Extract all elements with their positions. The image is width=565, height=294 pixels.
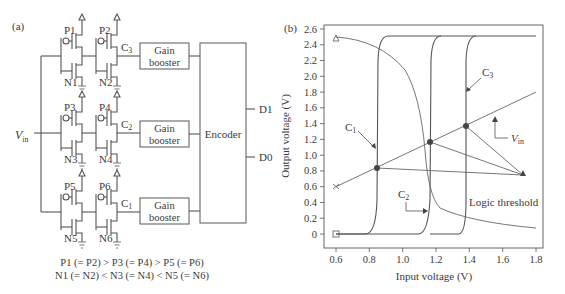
svg-text:1.2: 1.2 [304,134,317,145]
annot-c1: C1 [345,121,356,135]
svg-text:1.4: 1.4 [304,118,318,129]
svg-text:0: 0 [312,229,317,240]
svg-text:booster: booster [149,57,180,68]
label-p3: P3 [64,101,76,113]
plot-annotations: C1 C2 C3 Vin Logic threshold [345,66,539,214]
annot-logic-threshold: Logic threshold [469,196,539,208]
svg-text:Encoder: Encoder [205,128,242,140]
vdd-icon [114,14,120,20]
svg-text:0.6: 0.6 [329,254,342,265]
label-n3: N3 [64,153,78,165]
svg-text:1.0: 1.0 [396,254,409,265]
x-marker-icon [333,184,339,189]
arrow-vin-icon [495,122,508,138]
output-d0: D0 [259,151,273,163]
vdd-icon [114,170,120,176]
vdd-icon [79,91,85,97]
svg-text:1.4: 1.4 [463,254,477,265]
figure-canvas: (a) Vin P [0,0,565,294]
stage-2: P3 P4 N3 N4 C2 [41,91,140,169]
stage-3: P5 P6 N5 N6 C1 [41,170,140,248]
panel-b-label: (b) [284,22,297,35]
svg-text:1.2: 1.2 [429,254,442,265]
vdd-icon [79,170,85,176]
label-p2: P2 [99,24,111,36]
svg-text:2.2: 2.2 [304,55,317,66]
label-n6: N6 [99,232,113,244]
svg-text:2.6: 2.6 [304,24,317,35]
svg-text:Gain: Gain [154,45,175,56]
output-d1: D1 [259,103,272,115]
encoder-block: Encoder D1 D0 [200,43,273,223]
svg-text:0.4: 0.4 [304,197,318,208]
label-p1: P1 [64,24,76,36]
ground-icon [113,163,121,169]
svg-text:0.8: 0.8 [363,254,376,265]
svg-text:1.6: 1.6 [304,102,317,113]
stage-1: P1 P2 N1 N2 C3 [41,14,140,92]
triangle-marker-icon [333,35,339,41]
label-p5: P5 [64,180,76,192]
curve-c2 [377,36,441,234]
intersection-dot-c2 [427,139,433,145]
svg-text:Gain: Gain [154,200,175,211]
size-relation-n: N1 (= N2) < N3 (= N4) < N5 (= N6) [55,270,209,282]
size-relation-p: P1 (= P2) > P3 (= P4) > P5 (= P6) [60,257,204,269]
ground-icon [113,242,121,248]
arrow-c2-icon [406,202,423,211]
label-n4: N4 [99,153,113,165]
svg-text:2.4: 2.4 [304,39,318,50]
svg-text:0.2: 0.2 [304,213,317,224]
label-n2: N2 [99,76,112,88]
annot-vin: Vin [511,132,524,146]
gain-booster-3: Gain booster [140,198,200,224]
vdd-icon [79,14,85,20]
y-axis-title: Output voltage (V) [279,94,292,178]
svg-text:Gain: Gain [154,123,175,134]
label-c2: C2 [121,118,132,132]
svg-text:1.0: 1.0 [304,150,317,161]
label-c3: C3 [121,41,132,55]
label-n5: N5 [64,232,78,244]
arrow-c3-icon [469,78,481,89]
svg-text:0.6: 0.6 [304,181,317,192]
svg-text:2.0: 2.0 [304,71,317,82]
ground-icon [78,163,86,169]
intersection-dot-c3 [463,123,469,129]
vin-label: Vin [15,128,29,144]
ground-icon [78,242,86,248]
gain-booster-1: Gain booster [140,43,200,69]
label-c1: C1 [121,197,132,211]
svg-text:booster: booster [149,212,180,223]
x-axis-title: Input voltage (V) [396,270,473,283]
label-p4: P4 [99,101,111,113]
annot-c2: C2 [398,188,409,202]
gain-booster-2: Gain booster [140,121,200,147]
intersection-dot-c1 [374,165,380,171]
annot-c3: C3 [482,66,493,80]
panel-a-label: (a) [12,20,25,33]
svg-text:1.6: 1.6 [496,254,509,265]
label-n1: N1 [64,76,77,88]
svg-text:0.8: 0.8 [304,165,317,176]
pmos-bubble-icon [63,38,69,44]
svg-text:booster: booster [149,135,180,146]
y-axis: 0 0.2 0.4 0.6 0.8 1.0 1.2 1.4 1.6 1.8 2.… [279,24,324,240]
svg-text:1.8: 1.8 [304,87,317,98]
arrow-c1-icon [358,131,373,146]
vdd-icon [114,91,120,97]
svg-text:1.8: 1.8 [529,254,542,265]
label-p6: P6 [99,180,111,192]
x-axis: 0.6 0.8 1.0 1.2 1.4 1.6 1.8 Input voltag… [329,248,542,283]
